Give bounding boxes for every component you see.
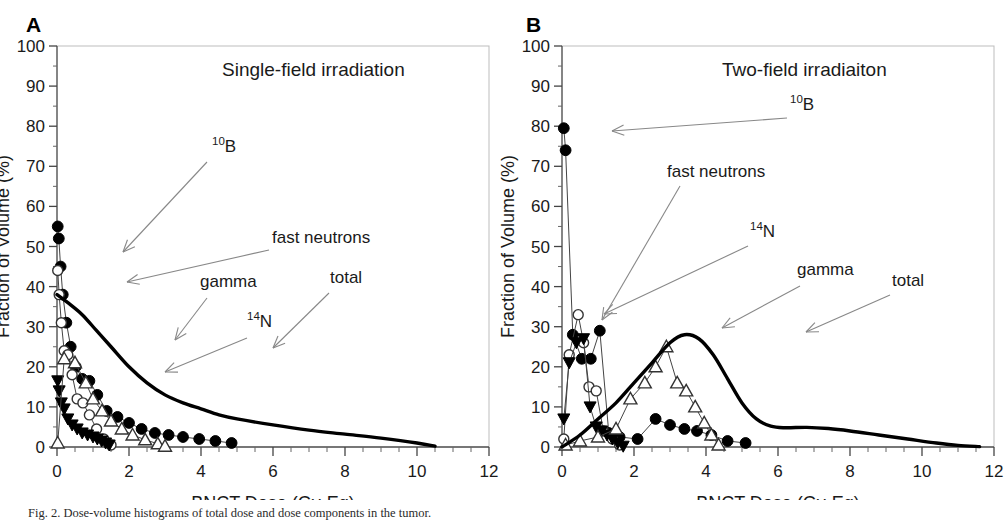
marker-filled-circle	[740, 438, 751, 449]
marker-filled-circle	[210, 436, 221, 447]
y-tick-label: 0	[36, 438, 45, 457]
y-tick-label: 50	[531, 238, 550, 257]
annotation-label: total	[330, 268, 362, 287]
plot-frame	[562, 46, 994, 447]
arrowhead	[127, 282, 140, 284]
annotation-superscript: 10	[212, 135, 225, 147]
marker-filled-circle	[226, 438, 237, 449]
x-axis-title: BNCT Dose (Gy-Eq)	[191, 493, 355, 500]
marker-filled-circle	[53, 233, 64, 244]
annotation-text: B	[225, 137, 236, 156]
panel-b-plot: 0102030405060708090100024681012BNCT Dose…	[500, 0, 1005, 500]
panel-a-plot: 0102030405060708090100024681012BNCT Dose…	[0, 0, 502, 500]
annotation-n14: 14N	[604, 220, 775, 314]
marker-filled-circle	[665, 420, 676, 431]
leader-line	[123, 162, 207, 252]
annotation-n14: 14N	[165, 310, 272, 372]
annotation-fast-neutrons: fast neutrons	[602, 162, 765, 320]
marker-open-triangle-up	[51, 436, 64, 448]
y-tick-label: 90	[26, 77, 45, 96]
leader-line	[273, 293, 329, 348]
x-axis-title: BNCT Dose (Gy-Eq)	[696, 493, 860, 500]
marker-filled-circle	[632, 434, 643, 445]
annotation-label: fast neutrons	[667, 162, 765, 181]
y-tick-label: 10	[531, 398, 550, 417]
marker-filled-circle	[585, 353, 596, 364]
annotation-text: N	[260, 312, 272, 331]
annotation-b10: 10B	[612, 93, 814, 135]
y-axis-title: Fraction of Volume (%)	[500, 155, 518, 338]
y-tick-label: 60	[26, 197, 45, 216]
annotation-label: 14N	[247, 310, 272, 331]
marker-filled-circle	[194, 434, 205, 445]
annotation-label: 10B	[212, 135, 236, 156]
y-tick-label: 60	[531, 197, 550, 216]
x-tick-label: 2	[124, 462, 133, 481]
marker-filled-circle	[178, 432, 189, 443]
marker-filled-triangle-down	[53, 386, 65, 397]
panel-b: B 0102030405060708090100024681012BNCT Do…	[500, 0, 1002, 500]
y-tick-label: 20	[531, 358, 550, 377]
marker-open-circle	[591, 386, 601, 396]
y-tick-label: 10	[26, 398, 45, 417]
x-tick-label: 12	[985, 462, 1004, 481]
total-curve	[562, 335, 980, 447]
x-tick-label: 4	[701, 462, 710, 481]
y-tick-label: 30	[531, 318, 550, 337]
annotation-gamma: gamma	[722, 260, 854, 328]
marker-open-circle	[67, 370, 77, 380]
annotation-label: 10B	[790, 93, 814, 114]
x-tick-label: 6	[268, 462, 277, 481]
annotation-label: gamma	[200, 272, 257, 291]
y-tick-label: 30	[26, 318, 45, 337]
panel-a: A 0102030405060708090100024681012BNCT Do…	[0, 0, 502, 500]
marker-filled-circle	[679, 424, 690, 435]
marker-open-circle	[573, 310, 583, 320]
y-tick-label: 50	[26, 238, 45, 257]
y-tick-label: 80	[531, 117, 550, 136]
marker-open-triangle-up	[671, 376, 684, 388]
marker-filled-circle	[558, 123, 569, 134]
marker-open-circle	[56, 318, 66, 328]
x-tick-label: 8	[845, 462, 854, 481]
leader-line	[806, 295, 890, 332]
annotation-gamma: gamma	[175, 272, 257, 340]
annotation-superscript: 14	[750, 220, 763, 232]
x-tick-label: 10	[913, 462, 932, 481]
marker-filled-circle	[650, 414, 661, 425]
annotation-superscript: 14	[247, 310, 260, 322]
annotation-b10: 10B	[123, 135, 236, 252]
marker-open-triangle-up	[698, 416, 711, 428]
x-tick-label: 0	[52, 462, 61, 481]
panel-title: Single-field irradiation	[222, 59, 405, 80]
x-tick-label: 10	[408, 462, 427, 481]
annotation-total: total	[806, 271, 924, 332]
marker-open-triangle-up	[689, 400, 702, 412]
x-tick-label: 0	[557, 462, 566, 481]
y-axis-title: Fraction of Volume (%)	[0, 155, 13, 338]
x-tick-label: 2	[629, 462, 638, 481]
marker-filled-triangle-down	[558, 414, 570, 425]
y-tick-label: 40	[531, 278, 550, 297]
y-tick-label: 100	[17, 37, 45, 56]
annotation-label: 14N	[750, 220, 775, 241]
leader-line	[175, 298, 207, 340]
annotation-superscript: 10	[790, 93, 803, 105]
y-tick-label: 90	[531, 77, 550, 96]
leader-line	[165, 338, 247, 372]
leader-line	[612, 118, 787, 131]
y-tick-label: 20	[26, 358, 45, 377]
x-tick-label: 8	[340, 462, 349, 481]
y-tick-label: 70	[531, 157, 550, 176]
leader-line	[722, 286, 800, 328]
series-10B	[52, 221, 237, 448]
annotation-label: gamma	[797, 260, 854, 279]
figure-caption: Fig. 2. Dose-volume histograms of total …	[28, 506, 978, 523]
y-tick-label: 0	[541, 438, 550, 457]
marker-filled-circle	[124, 418, 135, 429]
y-tick-label: 70	[26, 157, 45, 176]
annotation-total: total	[273, 268, 362, 348]
arrowhead	[722, 318, 730, 328]
marker-filled-triangle-down	[563, 358, 575, 369]
annotation-text: B	[803, 95, 814, 114]
